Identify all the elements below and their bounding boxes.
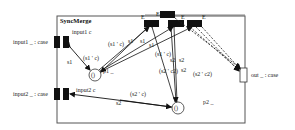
svg-text:(s2 ' c): (s2 ' c) (130, 91, 146, 98)
input2-port-inner[interactable] (63, 88, 69, 100)
place-p2-token: () (174, 105, 178, 112)
arc-ttop-out (175, 18, 240, 68)
place-p1-token: () (91, 72, 95, 79)
input1-outer-label: input1 _ : case (13, 39, 48, 45)
output-port[interactable] (240, 68, 247, 82)
transition-3-label: E (202, 14, 206, 20)
arc-t3-out (202, 27, 240, 69)
input1-inner-label: input1 c (72, 29, 92, 35)
svg-text:(s2 ' c2): (s2 ' c2) (193, 71, 212, 78)
arc-p1-t2 (100, 27, 173, 71)
transition-top[interactable] (160, 11, 175, 18)
transition-2-label: E (181, 14, 185, 20)
input2-port-outer[interactable] (54, 88, 60, 100)
svg-text:(s1 ' c): (s1 ' c) (155, 51, 171, 58)
svg-text:(s2 ' c2): (s2 ' c2) (159, 68, 178, 75)
module-title: SyncMerge (60, 17, 92, 24)
svg-text:s2: s2 (179, 57, 184, 63)
svg-text:s1: s1 (140, 38, 145, 44)
syncmerge-diagram: SyncMerge E E E E input1 _ : case input1… (0, 0, 295, 130)
arc-input2-p2 (120, 100, 171, 107)
svg-text:s2: s2 (170, 57, 175, 63)
svg-text:s1: s1 (149, 42, 154, 48)
svg-text:s1: s1 (128, 38, 133, 44)
place-p2-label: p2 _ (203, 99, 215, 105)
input2-outer-label: input2 _ : case (13, 91, 48, 97)
arc-p1-t3 (100, 27, 192, 72)
svg-text:s1: s1 (67, 59, 72, 65)
svg-text:s2: s2 (116, 100, 121, 106)
svg-text:s2: s2 (181, 67, 186, 73)
output-label: out _ : case (251, 72, 278, 78)
transition-1-label: E (141, 14, 145, 20)
input1-port-outer[interactable] (54, 36, 60, 48)
input1-port-inner[interactable] (63, 36, 69, 48)
svg-text:(s1 ' c): (s1 ' c) (108, 41, 124, 48)
input2-inner-label: input2 c (76, 87, 96, 93)
transition-1[interactable] (144, 20, 159, 27)
transition-top-label: E (156, 11, 160, 17)
transition-3[interactable] (187, 20, 202, 27)
svg-text:(s1 ' c): (s1 ' c) (83, 55, 99, 62)
arc-t1-p1 (101, 27, 148, 72)
